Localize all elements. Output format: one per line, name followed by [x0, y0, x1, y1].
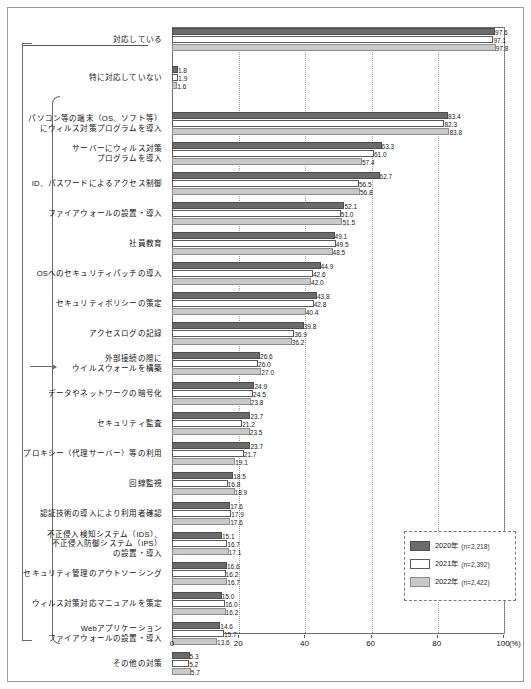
category-label: 回線監視 — [0, 479, 166, 489]
bar-value-label: 51.5 — [342, 218, 355, 225]
category-label-line: 認証技術の導入により利用者確認 — [0, 509, 162, 519]
bar-2020年-5: 52.1 — [172, 202, 344, 209]
bar-2021年-16: 16.7 — [172, 540, 227, 547]
category-label-line: の設置・導入 — [0, 549, 162, 559]
category-label: 外部接続の際にウイルスウォールを構築 — [0, 354, 166, 373]
bar-group: 49.149.548.5 — [172, 232, 503, 256]
category-label: ID、パスワードによるアクセス制御 — [0, 179, 166, 189]
legend-item-2020年: 2020年(n=2,218) — [410, 537, 510, 555]
bar-2020年-2: 83.4 — [172, 112, 448, 119]
x-tick-100 — [503, 635, 504, 638]
bar-2022年-13: 19.1 — [172, 458, 235, 465]
category-label-line: Webアプリケーション — [0, 624, 162, 634]
bar-value-label: 82.3 — [444, 120, 457, 127]
bar-2022年-7: 42.0 — [172, 278, 311, 285]
category-label-line: セキュリティポリシーの策定 — [0, 299, 162, 309]
x-tick-20 — [238, 635, 239, 638]
category-label-line: 特に対応していない — [0, 73, 162, 83]
bar-value-label: 39.8 — [304, 322, 317, 329]
x-tick-label-100: 100 — [496, 639, 509, 648]
category-label-line: OSへのセキュリティパッチの導入 — [0, 269, 162, 279]
bar-value-label: 16.2 — [226, 608, 239, 615]
bar-2022年-16: 17.1 — [172, 548, 229, 555]
bar-value-label: 5.3 — [190, 652, 199, 659]
bar-value-label: 27.0 — [261, 368, 274, 375]
bar-value-label: 26.0 — [258, 360, 271, 367]
bar-value-label: 15.0 — [222, 592, 235, 599]
bar-value-label: 24.5 — [253, 390, 266, 397]
legend-sample-size: (n=2,422) — [461, 579, 489, 586]
bar-2020年-1: 1.8 — [172, 66, 178, 73]
category-label: 不正侵入検知システム（IDS）、不正侵入防御システム（IPS）の設置・導入 — [0, 530, 166, 559]
bar-value-label: 23.8 — [251, 398, 264, 405]
bar-value-label: 62.7 — [380, 172, 393, 179]
x-tick-60 — [371, 635, 372, 638]
legend-swatch-2022年 — [410, 577, 430, 587]
bar-group: 43.842.840.4 — [172, 292, 503, 316]
bar-2020年-20: 5.3 — [172, 652, 190, 659]
legend-swatch-2020年 — [410, 541, 430, 551]
legend-item-2021年: 2021年(n=2,392) — [410, 555, 510, 573]
category-label: ウィルス対策対応マニュアルを策定 — [0, 599, 166, 609]
bar-2021年-0: 97.1 — [172, 36, 493, 43]
bar-2021年-13: 21.7 — [172, 450, 244, 457]
bar-value-label: 97.1 — [493, 36, 506, 43]
bar-2021年-9: 36.9 — [172, 330, 294, 337]
bar-value-label: 42.6 — [313, 270, 326, 277]
bar-group: 1.81.91.6 — [172, 66, 503, 90]
bar-2021年-20: 5.2 — [172, 660, 189, 667]
bar-group: 24.924.523.8 — [172, 382, 503, 406]
x-tick-label-60: 60 — [366, 639, 375, 648]
bar-value-label: 18.9 — [235, 488, 248, 495]
category-label: 社員教育 — [0, 239, 166, 249]
bar-value-label: 49.5 — [336, 240, 349, 247]
bar-value-label: 44.9 — [321, 262, 334, 269]
bar-2020年-10: 26.6 — [172, 352, 260, 359]
bar-2021年-17: 16.2 — [172, 570, 226, 577]
bar-group: 5.35.25.7 — [172, 652, 503, 676]
category-label-line: 外部接続の際に — [0, 354, 162, 364]
bar-2021年-2: 82.3 — [172, 120, 444, 127]
bar-value-label: 49.1 — [335, 232, 348, 239]
category-label-line: ウィルス対策対応マニュアルを策定 — [0, 599, 162, 609]
category-label: セキュリティ監査 — [0, 419, 166, 429]
bar-2020年-15: 17.6 — [172, 502, 230, 509]
bar-2020年-4: 62.7 — [172, 172, 380, 179]
category-label-line: パソコン等の端末（OS、ソフト等） — [0, 114, 162, 124]
bar-value-label: 24.9 — [254, 382, 267, 389]
bar-value-label: 16.7 — [227, 578, 240, 585]
bar-value-label: 48.5 — [333, 248, 346, 255]
category-label-line: 不正侵入検知システム（IDS）、 — [0, 530, 162, 540]
bar-value-label: 1.6 — [177, 82, 186, 89]
bar-value-label: 23.7 — [250, 442, 263, 449]
legend-sample-size: (n=2,392) — [461, 561, 489, 568]
x-tick-label-40: 40 — [300, 639, 309, 648]
bar-group: 62.756.556.8 — [172, 172, 503, 196]
bar-2020年-3: 63.3 — [172, 142, 382, 149]
x-tick-40 — [304, 635, 305, 638]
category-label: プロキシー（代理サーバー）等の利用 — [0, 449, 166, 459]
bar-value-label: 36.2 — [292, 338, 305, 345]
bar-value-label: 36.9 — [294, 330, 307, 337]
bar-2022年-2: 83.8 — [172, 128, 449, 135]
bar-value-label: 42.8 — [314, 300, 327, 307]
category-label-line: ファイアウォールの設置・導入 — [0, 634, 162, 644]
bar-value-label: 63.3 — [382, 142, 395, 149]
category-label-line: ウイルスウォールを構築 — [0, 364, 162, 374]
legend-swatch-2021年 — [410, 559, 430, 569]
category-label: 特に対応していない — [0, 73, 166, 83]
bar-2021年-14: 16.8 — [172, 480, 228, 487]
legend-sample-size: (n=2,218) — [461, 543, 489, 550]
bar-value-label: 17.6 — [230, 502, 243, 509]
bar-group: 44.942.642.0 — [172, 262, 503, 286]
legend-item-2022年: 2022年(n=2,422) — [410, 573, 510, 591]
bar-2020年-12: 23.7 — [172, 412, 250, 419]
bar-value-label: 40.4 — [306, 308, 319, 315]
category-label: その他の対策 — [0, 659, 166, 669]
bar-2020年-14: 18.5 — [172, 472, 233, 479]
category-label: サーバーにウィルス対策プログラムを導入 — [0, 144, 166, 163]
bar-value-label: 5.7 — [191, 668, 200, 675]
bar-2022年-3: 57.4 — [172, 158, 362, 165]
bar-group: 52.151.051.5 — [172, 202, 503, 226]
category-label: Webアプリケーションファイアウォールの設置・導入 — [0, 624, 166, 643]
